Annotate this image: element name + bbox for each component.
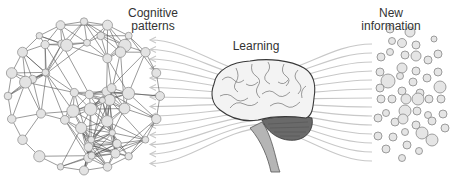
new-info-label-line2: information (355, 20, 427, 33)
cerebrum (212, 60, 315, 121)
learning-label: Learning (226, 40, 286, 53)
cognitive-network-graph (4, 18, 164, 175)
new-information-label: New information (355, 7, 427, 33)
new-information-circles (374, 25, 449, 162)
cognitive-label-line2: patterns (118, 20, 188, 33)
brain-icon (212, 60, 315, 172)
cognitive-patterns-label: Cognitive patterns (118, 7, 188, 33)
